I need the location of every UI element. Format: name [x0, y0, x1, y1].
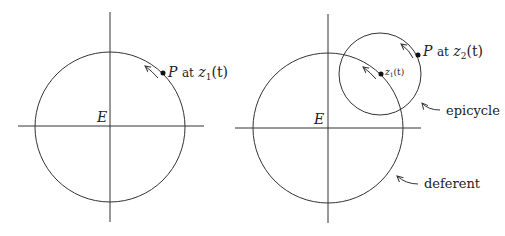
right-center-label: E: [313, 111, 324, 127]
right-point-p: [416, 53, 421, 58]
right-point-label: P at z2(t): [422, 43, 483, 61]
epicycle-figure: E P at z1(t) E P at z2(t) z1(t) epicycle…: [0, 0, 505, 236]
deferent-pointer-arrow-icon: [397, 176, 418, 184]
epicycle-label: epicycle: [446, 103, 500, 118]
epicycle-pointer-arrow-icon: [422, 103, 440, 110]
left-diagram: E P at z1(t): [18, 12, 228, 222]
left-center-label: E: [96, 109, 107, 125]
left-point-p: [161, 71, 166, 76]
left-point-label: P at z1(t): [167, 64, 228, 82]
deferent-label: deferent: [424, 176, 481, 191]
right-diagram: E P at z2(t) z1(t) epicycle deferent: [235, 14, 500, 223]
epicycle-center-label: z1(t): [384, 67, 404, 78]
epicycle-center-point: [379, 72, 384, 77]
epicycle-direction-arrow-icon: [401, 44, 413, 58]
